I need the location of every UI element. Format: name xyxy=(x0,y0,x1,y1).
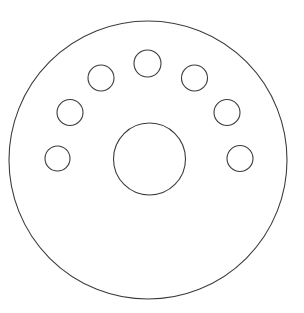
bolt-hole-4 xyxy=(57,100,83,126)
bolt-holes-group xyxy=(45,50,253,172)
drawing-canvas xyxy=(0,0,304,313)
bolt-hole-1 xyxy=(134,50,161,77)
bolt-hole-6 xyxy=(45,146,70,171)
bolt-hole-3 xyxy=(182,65,208,91)
bolt-hole-5 xyxy=(214,100,240,126)
technical-drawing-svg xyxy=(0,0,304,313)
outer-rim-circle xyxy=(9,21,287,299)
center-bore-circle xyxy=(114,123,186,195)
bolt-hole-2 xyxy=(88,65,114,91)
bolt-hole-7 xyxy=(227,146,253,172)
